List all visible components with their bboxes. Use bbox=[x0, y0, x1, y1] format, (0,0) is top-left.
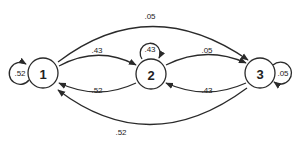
self-loop-3: .05 bbox=[273, 62, 291, 84]
self-loop-1: .52 bbox=[9, 62, 29, 84]
edge-1-to-3: .05 bbox=[58, 12, 248, 62]
edge-label-2-2: .43 bbox=[144, 45, 156, 54]
state-diagram: .05 .43 .52 .05 .43 .52 .52 .43 .05 bbox=[0, 0, 300, 144]
edge-label-1-2: .43 bbox=[91, 46, 103, 55]
edge-label-1-3: .05 bbox=[144, 12, 156, 21]
node-1-label: 1 bbox=[39, 67, 46, 82]
node-2-label: 2 bbox=[147, 68, 154, 83]
edge-2-to-1: .52 bbox=[59, 83, 136, 95]
edge-3-to-2: .43 bbox=[166, 83, 246, 95]
edge-label-3-3: .05 bbox=[277, 69, 289, 78]
edge-label-2-1: .52 bbox=[91, 86, 103, 95]
edge-2-to-3: .05 bbox=[166, 46, 246, 65]
self-loop-2: .43 bbox=[140, 43, 160, 59]
node-1: 1 bbox=[28, 58, 58, 88]
edge-label-2-3: .05 bbox=[201, 46, 213, 55]
node-3-label: 3 bbox=[256, 67, 263, 82]
edge-label-3-2: .43 bbox=[201, 86, 213, 95]
edge-label-1-1: .52 bbox=[14, 69, 26, 78]
edge-3-to-1: .52 bbox=[58, 88, 247, 137]
edge-1-to-2: .43 bbox=[59, 46, 136, 66]
node-2: 2 bbox=[136, 59, 166, 89]
node-3: 3 bbox=[245, 58, 275, 88]
edge-label-3-1: .52 bbox=[115, 128, 127, 137]
